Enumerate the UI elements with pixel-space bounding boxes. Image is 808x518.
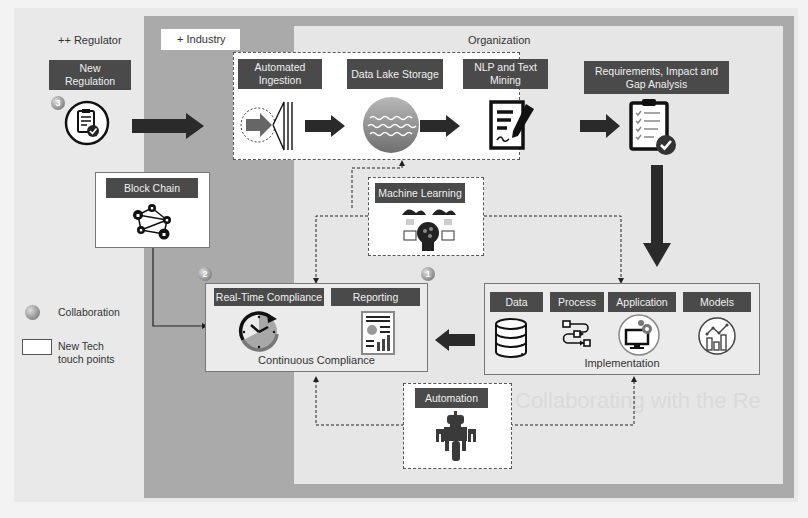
flow-arrow-left (435, 329, 475, 351)
implementation-item-application: Application (608, 292, 676, 312)
models-chart-icon (697, 316, 737, 356)
process-flow-icon (562, 320, 594, 348)
implementation-caption: Implementation (484, 357, 760, 369)
legend-collaboration-icon (25, 305, 40, 320)
application-monitor-icon (618, 314, 660, 356)
implementation-item-models: Models (683, 292, 751, 312)
real-time-clock-icon (237, 310, 281, 354)
real-time-compliance-label: Real-Time Compliance (214, 288, 324, 306)
legend-collaboration-label: Collaboration (58, 306, 120, 319)
collaboration-badge-2: 2 (198, 267, 212, 281)
reporting-label: Reporting (331, 288, 420, 306)
continuous-compliance-caption: Continuous Compliance (205, 354, 428, 366)
automation-label: Automation (415, 388, 488, 408)
implementation-item-data: Data (490, 292, 543, 312)
legend-new-tech-swatch (22, 339, 52, 355)
legend-new-tech-label: New Tech touch points (58, 340, 115, 366)
report-document-icon (361, 311, 395, 355)
automation-robot-icon (433, 411, 479, 465)
collaboration-badge-1: 1 (421, 267, 435, 281)
database-icon (494, 318, 528, 358)
implementation-item-process: Process (550, 292, 604, 312)
